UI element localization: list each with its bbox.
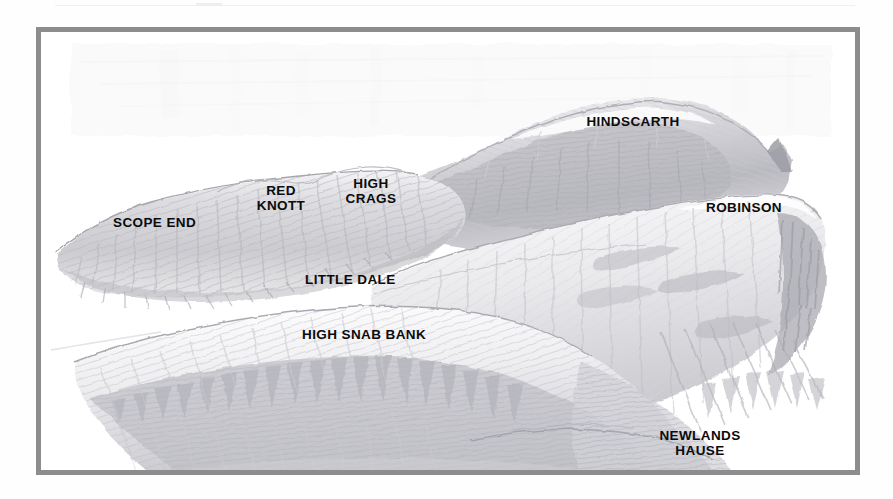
label-scope-end[interactable]: SCOPE END xyxy=(113,215,196,230)
label-red-knott[interactable]: RED KNOTT xyxy=(257,183,306,213)
illustration-canvas: SCOPE END RED KNOTT HIGH CRAGS HINDSCART… xyxy=(41,32,855,470)
scan-artifact-line xyxy=(55,5,855,6)
scan-artifact-speck xyxy=(196,3,222,6)
label-hindscarth[interactable]: HINDSCARTH xyxy=(586,114,679,129)
mountain-panorama-sketch xyxy=(41,32,855,470)
label-high-crags[interactable]: HIGH CRAGS xyxy=(346,176,397,206)
label-high-snab-bank[interactable]: HIGH SNAB BANK xyxy=(302,327,426,342)
label-little-dale[interactable]: LITTLE DALE xyxy=(305,272,396,287)
page-canvas: SCOPE END RED KNOTT HIGH CRAGS HINDSCART… xyxy=(0,0,893,499)
label-newlands-hause[interactable]: NEWLANDS HAUSE xyxy=(659,428,740,458)
illustration-frame: SCOPE END RED KNOTT HIGH CRAGS HINDSCART… xyxy=(36,27,860,475)
label-robinson[interactable]: ROBINSON xyxy=(706,200,782,215)
